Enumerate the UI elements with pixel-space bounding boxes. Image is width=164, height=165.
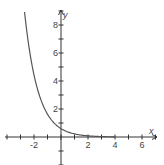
y-tick-label: 8 [53, 20, 58, 30]
x-tick-label: 6 [139, 140, 144, 150]
y-tick-label: 6 [53, 48, 58, 58]
axes [5, 10, 157, 165]
y-tick-label: 4 [53, 76, 58, 86]
plot-area: -22462468 x y [0, 0, 164, 165]
y-tick-label: 2 [53, 104, 58, 114]
chart: -22462468 x y [0, 0, 164, 165]
x-tick-label: 2 [85, 140, 90, 150]
x-axis-label: x [148, 126, 154, 136]
data-curve [25, 12, 115, 137]
tick-labels: -22462468 [30, 20, 145, 150]
x-tick-label: 4 [112, 140, 117, 150]
y-axis-label: y [62, 10, 68, 20]
x-tick-label: -2 [30, 140, 38, 150]
